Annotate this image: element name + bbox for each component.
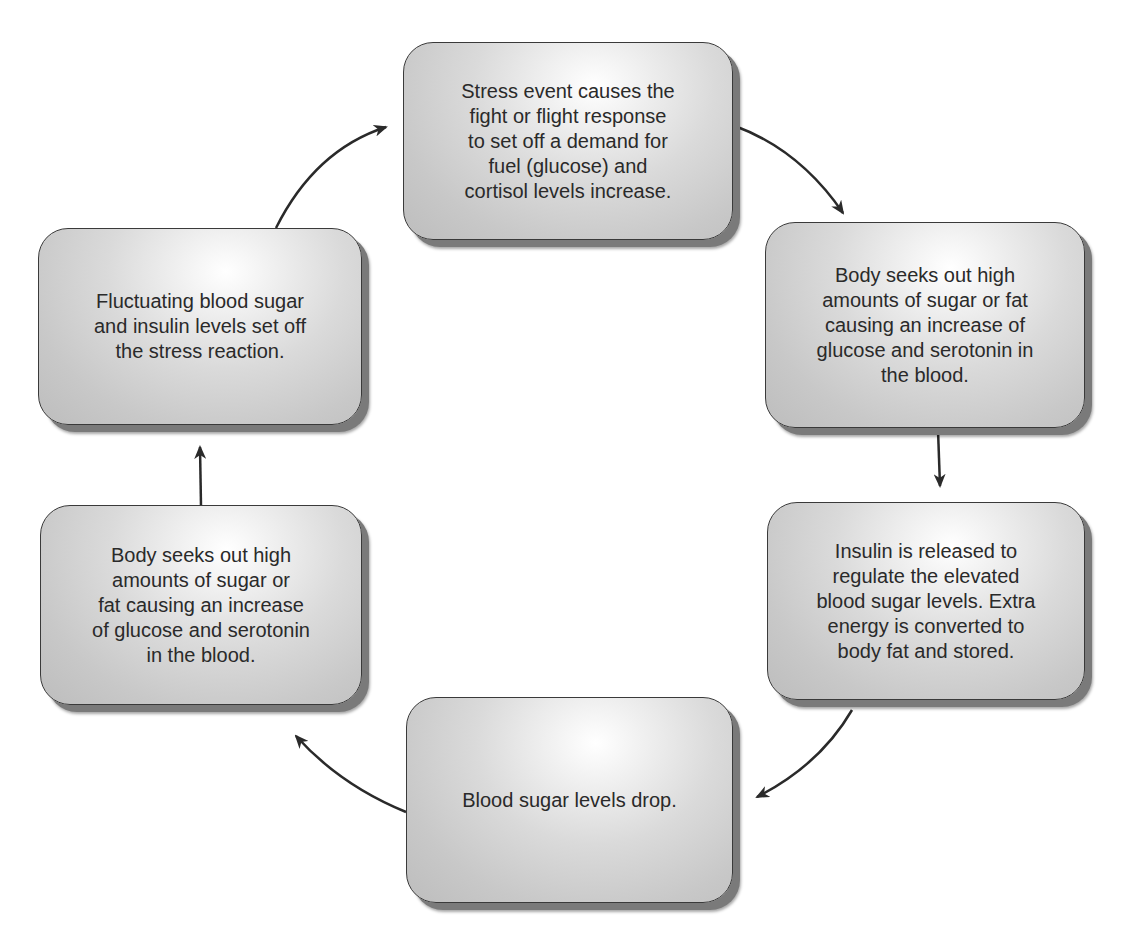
step-text: Insulin is released to regulate the elev… xyxy=(816,539,1035,664)
step-stress-event: Stress event causes the fight or flight … xyxy=(403,42,733,240)
step-insulin-released: Insulin is released to regulate the elev… xyxy=(767,502,1085,700)
arrow-insulin-to-blood-sugar-drop xyxy=(757,710,852,797)
step-text: Body seeks out high amounts of sugar or … xyxy=(817,263,1034,388)
step-text: Fluctuating blood sugar and insulin leve… xyxy=(94,289,306,364)
step-blood-sugar-drop: Blood sugar levels drop. xyxy=(406,697,733,903)
step-text: Blood sugar levels drop. xyxy=(462,788,677,813)
step-text: Stress event causes the fight or flight … xyxy=(461,79,674,204)
arrow-blood-sugar-drop-to-body-seeks-left xyxy=(296,736,406,812)
step-body-seeks-right: Body seeks out high amounts of sugar or … xyxy=(765,222,1085,428)
step-fluctuating-blood-sugar: Fluctuating blood sugar and insulin leve… xyxy=(38,228,362,425)
arrow-stress-to-body-seeks-right xyxy=(735,126,843,213)
arrow-body-seeks-right-to-insulin xyxy=(938,430,940,486)
step-body-seeks-left: Body seeks out high amounts of sugar or … xyxy=(40,505,362,705)
arrow-fluctuating-to-stress xyxy=(276,127,386,228)
step-text: Body seeks out high amounts of sugar or … xyxy=(92,543,310,668)
arrow-body-seeks-left-to-fluctuating xyxy=(200,447,201,506)
